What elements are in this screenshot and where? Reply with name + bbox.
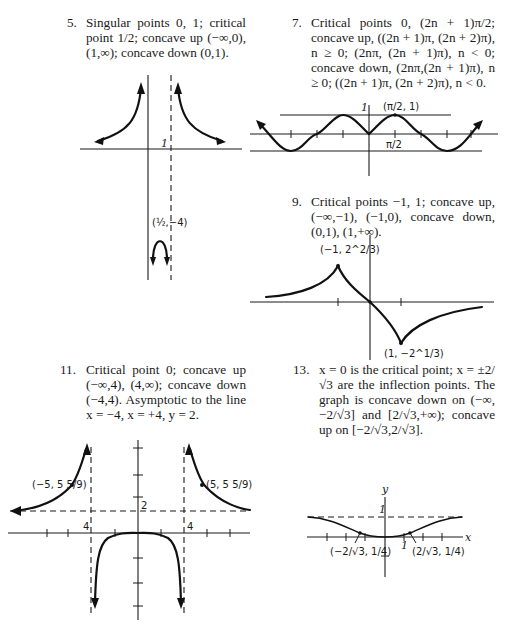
- label-right-four: 4: [187, 521, 193, 532]
- problem-text: Critical points 0, (2n + 1)π/2; concave …: [311, 15, 495, 90]
- label-right-inflection: (2/√3, 1/4): [412, 546, 465, 557]
- problem-5: 5. Singular points 0, 1; critical point …: [86, 15, 246, 60]
- label-y-axis: y: [381, 483, 389, 496]
- curve-left: [98, 88, 141, 141]
- problem-9: 9. Critical points −1, 1; concave up, (−…: [311, 194, 495, 239]
- label-left-four: 4: [83, 521, 89, 532]
- problem-number: 7.: [292, 15, 302, 30]
- problem-11: 11. Critical point 0; concave up (−∞,4),…: [86, 362, 246, 422]
- problem-number: 9.: [292, 194, 302, 209]
- problem-number: 11.: [60, 362, 76, 377]
- graph-problem-5: 1 (½,−4): [0, 90, 250, 300]
- problem-13: 13. x = 0 is the critical point; x = ±2/…: [319, 362, 495, 437]
- label-one: 1: [161, 137, 168, 150]
- label-one-x: 1: [401, 539, 408, 552]
- label-left-inflection: (−2/√3, 1/4): [330, 546, 391, 557]
- label-y-asymptote: 2: [141, 500, 147, 511]
- label-left-point: (−5, 5 5/9): [32, 479, 87, 490]
- problem-number: 5.: [67, 15, 77, 30]
- problem-text: x = 0 is the critical point; x = ±2/√3 a…: [319, 362, 495, 437]
- label-right-point: (5, 5 5/9): [206, 479, 252, 490]
- label-max-point: (π/2, 1): [383, 101, 419, 112]
- curve-right: [178, 88, 222, 141]
- problem-text: Critical points −1, 1; concave up, (−∞,−…: [311, 194, 495, 239]
- label-min: (1, −2^1/3): [384, 348, 444, 359]
- problem-number: 13.: [293, 362, 309, 377]
- label-max: (−1, 2^2/3): [320, 244, 380, 255]
- label-x-axis: x: [465, 531, 472, 544]
- graph-problem-13: y x 1 1 (−2/√3, 1/4) (2/√3, 1/4): [250, 485, 511, 605]
- label-one: 1: [361, 101, 368, 114]
- curve: [266, 266, 482, 343]
- problem-text: Singular points 0, 1; critical point 1/2…: [86, 15, 246, 60]
- graph-problem-11: (−5, 5 5/9) (5, 5 5/9) 2 4 4: [0, 425, 250, 625]
- problem-text: Critical point 0; concave up (−∞,4), (4,…: [86, 362, 246, 422]
- label-one-y: 1: [379, 503, 386, 516]
- label-tick: π/2: [386, 139, 402, 150]
- problem-7: 7. Critical points 0, (2n + 1)π/2; conca…: [311, 15, 495, 90]
- label-critical-point: (½,−4): [152, 217, 188, 228]
